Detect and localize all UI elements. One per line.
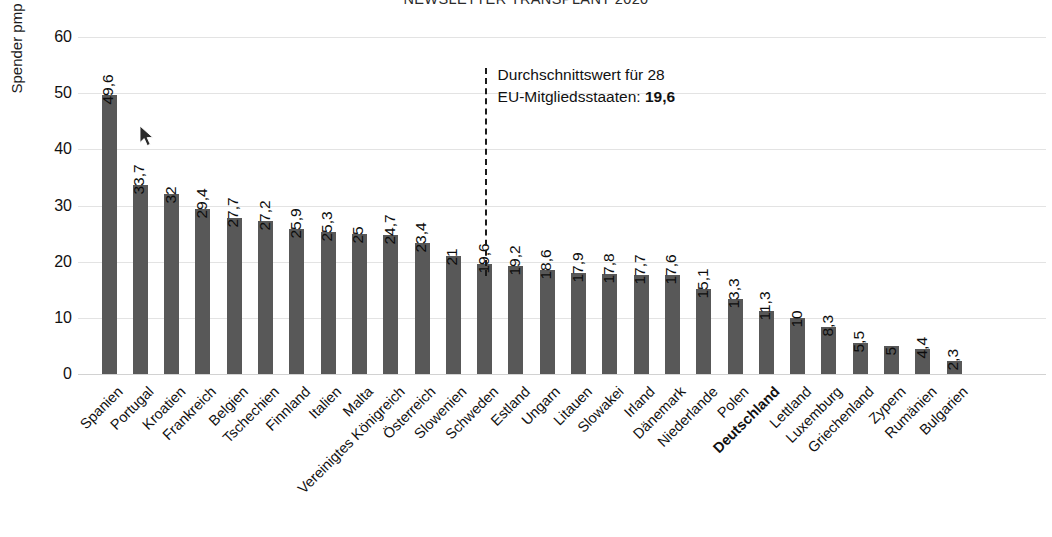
bar-value-label: 17,7 <box>632 254 648 284</box>
bar-value-label: 5 <box>882 347 898 356</box>
bar-value-label: 25 <box>350 226 366 243</box>
bar[interactable] <box>728 299 743 374</box>
bar-value-label: 24,7 <box>381 215 397 245</box>
bar-value-label: 23,4 <box>413 222 429 252</box>
gridline-0 <box>78 374 1046 375</box>
average-annotation: Durchschnittswert für 28 EU-Mitgliedssta… <box>498 64 675 109</box>
bar[interactable] <box>665 275 680 374</box>
bar-value-label: 49,6 <box>100 75 116 105</box>
gridline-10 <box>78 318 1046 319</box>
gridline-20 <box>78 262 1046 263</box>
y-axis-title: Spender pmp <box>8 0 25 109</box>
bar[interactable] <box>321 232 336 374</box>
bar-value-label: 33,7 <box>131 164 147 194</box>
bar[interactable] <box>289 229 304 374</box>
average-annotation-line2: EU-Mitgliedsstaaten: 19,6 <box>498 86 675 108</box>
average-annotation-value: 19,6 <box>645 88 675 105</box>
bar-value-label: 13,3 <box>726 279 742 309</box>
bar-value-label: 4,4 <box>913 337 929 359</box>
bar[interactable] <box>602 274 617 374</box>
bar-value-label: 27,7 <box>225 198 241 228</box>
bar-value-label: 19,2 <box>506 245 522 275</box>
bar[interactable] <box>540 270 555 374</box>
bar[interactable] <box>477 264 492 374</box>
bar[interactable] <box>634 275 649 374</box>
y-tick-label-50: 50 <box>36 85 72 101</box>
bar-value-label: 2,3 <box>945 349 961 371</box>
bar[interactable] <box>508 266 523 374</box>
gridline-60 <box>78 37 1046 38</box>
bar-value-label: 10 <box>788 310 804 327</box>
y-axis-ticks: 0102030405060 <box>30 37 72 374</box>
bar-value-label: 19,6 <box>475 243 491 273</box>
bar[interactable] <box>227 218 242 374</box>
bar[interactable] <box>195 209 210 374</box>
x-axis-label[interactable]: Italien <box>306 384 344 422</box>
y-tick-label-10: 10 <box>36 310 72 326</box>
bar-value-label: 18,6 <box>538 249 554 279</box>
bar[interactable] <box>571 273 586 374</box>
mouse-cursor <box>139 125 157 149</box>
y-tick-label-0: 0 <box>36 366 72 382</box>
bar-value-label: 15,1 <box>694 269 710 299</box>
bar-value-label: 5,5 <box>851 331 867 353</box>
bar-value-label: 25,9 <box>287 208 303 238</box>
bar[interactable] <box>258 221 273 374</box>
bar-value-label: 25,3 <box>319 211 335 241</box>
bar[interactable] <box>415 243 430 374</box>
bar[interactable] <box>133 185 148 374</box>
gridline-40 <box>78 149 1046 150</box>
y-tick-label-20: 20 <box>36 254 72 270</box>
bar-value-label: 17,9 <box>569 253 585 283</box>
bar-value-label: 32 <box>162 187 178 204</box>
bar-value-label: 27,2 <box>256 201 272 231</box>
y-tick-label-60: 60 <box>36 29 72 45</box>
bar[interactable] <box>446 256 461 374</box>
y-tick-label-30: 30 <box>36 198 72 214</box>
bar[interactable] <box>696 289 711 374</box>
chart-page: NEWSLETTER TRANSPLANT 2020 Spender pmp 0… <box>0 0 1052 537</box>
average-annotation-prefix: EU-Mitgliedsstaaten: <box>498 88 645 105</box>
average-annotation-line1: Durchschnittswert für 28 <box>498 64 675 86</box>
chart-title: NEWSLETTER TRANSPLANT 2020 <box>0 0 1052 7</box>
bar-value-label: 8,3 <box>819 315 835 337</box>
bar-value-label: 17,8 <box>600 253 616 283</box>
average-reference-line <box>485 68 487 276</box>
bar[interactable] <box>352 234 367 374</box>
bar[interactable] <box>102 95 117 374</box>
bar-value-label: 21 <box>444 248 460 265</box>
bar-value-label: 17,6 <box>663 254 679 284</box>
bar-value-label: 29,4 <box>193 188 209 218</box>
bar-value-label: 11,3 <box>757 291 773 320</box>
bar[interactable] <box>164 194 179 374</box>
y-tick-label-40: 40 <box>36 141 72 157</box>
bar[interactable] <box>383 235 398 374</box>
